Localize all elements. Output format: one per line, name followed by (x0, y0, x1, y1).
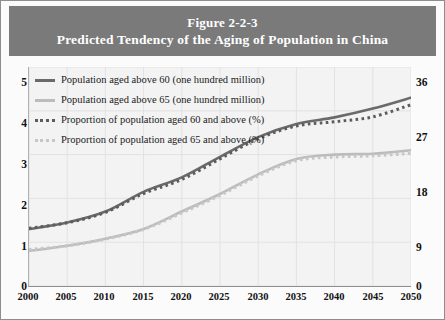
y-left-tick-3: 3 (11, 158, 27, 170)
x-tick-2020: 2020 (161, 291, 201, 302)
legend-item-prop65: Proportion of population aged 65 and abo… (35, 133, 264, 147)
x-tick-2025: 2025 (199, 291, 239, 302)
x-tick-2030: 2030 (238, 291, 278, 302)
x-tick-2015: 2015 (123, 291, 163, 302)
x-tick-2035: 2035 (276, 291, 316, 302)
y-left-tick-4: 4 (11, 117, 27, 129)
legend-label-prop60: Proportion of population aged 60 and abo… (61, 114, 264, 126)
legend-label-prop65: Proportion of population aged 65 and abo… (61, 134, 264, 146)
legend-label-pop65: Population aged above 65 (one hundred mi… (61, 94, 265, 106)
plot-area: Population aged above 60 (one hundred mi… (28, 67, 411, 287)
legend-swatch-solid-dark-icon (35, 79, 55, 82)
x-tick-2040: 2040 (314, 291, 354, 302)
y-left-tick-1: 1 (11, 240, 27, 252)
x-tick-2000: 2000 (8, 291, 48, 302)
legend-label-pop60: Population aged above 60 (one hundred mi… (61, 74, 265, 86)
y-right-tick-18: 18 (416, 186, 436, 198)
legend-item-pop60: Population aged above 60 (one hundred mi… (35, 73, 265, 87)
x-tick-2050: 2050 (391, 291, 431, 302)
legend-swatch-dotted-dark-icon (35, 119, 55, 122)
figure-number: Figure 2-2-3 (187, 14, 257, 31)
legend-item-prop60: Proportion of population aged 60 and abo… (35, 113, 264, 127)
legend-item-pop65: Population aged above 65 (one hundred mi… (35, 93, 265, 107)
y-right-tick-9: 9 (416, 241, 436, 253)
y-right-tick-36: 36 (416, 76, 436, 88)
y-left-tick-5: 5 (11, 76, 27, 88)
x-tick-2010: 2010 (84, 291, 124, 302)
chart-legend: Population aged above 60 (one hundred mi… (29, 67, 411, 286)
figure-container: Figure 2-2-3 Predicted Tendency of the A… (0, 0, 445, 320)
y-left-tick-2: 2 (11, 199, 27, 211)
legend-swatch-solid-light-icon (35, 99, 55, 102)
x-tick-2005: 2005 (46, 291, 86, 302)
legend-swatch-dotted-light-icon (35, 139, 55, 142)
page-title: Predicted Tendency of the Aging of Popul… (57, 31, 389, 49)
x-tick-2045: 2045 (353, 291, 393, 302)
figure-title-banner: Figure 2-2-3 Predicted Tendency of the A… (9, 6, 436, 56)
y-right-tick-27: 27 (416, 131, 436, 143)
